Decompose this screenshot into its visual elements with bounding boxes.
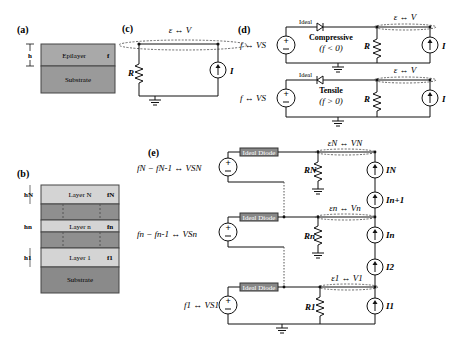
mapping-d-top: ε ↔ V — [394, 12, 418, 22]
resistor-Rn: Rn — [303, 231, 315, 241]
height-h1: h1 — [24, 254, 32, 262]
panel-e: (e) Ideal Diode εN ↔ VN RN fN − fN-1 ↔ V… — [137, 138, 404, 333]
current-I2: I2 — [385, 262, 395, 272]
panel-e-label: (e) — [148, 147, 159, 159]
mapping-N: εN ↔ VN — [328, 138, 364, 148]
condition-compressive: (f < 0) — [319, 43, 343, 53]
current-d-bottom: I — [441, 94, 446, 104]
epilayer-label: Epilayer — [62, 52, 86, 60]
strain-fn: fn — [107, 223, 113, 231]
ideal-diode-1: Ideal Diode — [243, 284, 276, 292]
mapping-d-bottom: ε ↔ V — [394, 65, 418, 75]
resistor-RN: RN — [303, 165, 317, 175]
layer-1-label: Layer 1 — [69, 254, 91, 262]
mode-tensile: Tensile — [319, 86, 343, 95]
layer-n-top-label: Layer N — [68, 191, 91, 199]
panel-b: (b) Layer N Layer n Layer 1 Substrate fN… — [17, 168, 119, 293]
resistor-R: R — [127, 68, 134, 78]
height-hN: hN — [24, 191, 33, 199]
strain-f1: f1 — [107, 254, 113, 262]
height-label: h — [28, 52, 32, 60]
source-N: fN − fN-1 ↔ VSN — [137, 163, 203, 173]
source-d-bottom: f ↔ VS — [240, 93, 266, 103]
panel-c-label: (c) — [122, 23, 133, 35]
mapping-n: εn ↔ Vn — [329, 203, 361, 213]
diode-ideal-bottom: Ideal — [299, 71, 312, 78]
mapping-1: ε1 ↔ V1 — [331, 273, 363, 283]
current-I1: I1 — [385, 301, 394, 311]
height-hn: hn — [24, 223, 32, 231]
ideal-diode-N: Ideal Diode — [243, 149, 276, 157]
panel-a: (a) Epilayer f Substrate h — [17, 24, 115, 93]
substrate-b-label: Substrate — [67, 276, 93, 284]
panel-c: (c) ε ↔ V R I — [119, 23, 247, 105]
mapping-c: ε ↔ V — [169, 25, 193, 35]
panel-d-label: (d) — [238, 24, 250, 36]
strain-fN: fN — [107, 191, 114, 199]
resistor-d-bottom: R — [363, 94, 370, 104]
panel-b-label: (b) — [17, 168, 29, 180]
resistor-d-top: R — [363, 41, 370, 51]
substrate-label: Substrate — [65, 76, 91, 84]
diode-ideal-top: Ideal — [299, 18, 312, 25]
figure-canvas: + (a) Epilayer f Substrate h (b) Layer N… — [0, 0, 460, 353]
resistor-R1: R1 — [304, 302, 316, 312]
ideal-diode-n: Ideal Diode — [243, 214, 276, 222]
panel-a-label: (a) — [17, 24, 29, 36]
layer-n-label: Layer n — [69, 223, 91, 231]
current-In: In — [385, 230, 395, 240]
mode-compressive: Compressive — [309, 33, 353, 42]
condition-tensile: (f > 0) — [319, 96, 343, 106]
source-1: f1 ↔ VS1 — [184, 300, 219, 310]
current-d-top: I — [441, 41, 446, 51]
current-IN: IN — [385, 165, 397, 175]
current-In+1: In+1 — [385, 195, 404, 205]
current-I: I — [229, 66, 234, 76]
source-d-top: f ↔ VS — [240, 40, 266, 50]
panel-d: (d) Ideal ε ↔ V f ↔ VS Compressive (f < … — [238, 12, 446, 126]
source-n: fn − fn-1 ↔ VSn — [137, 229, 198, 239]
